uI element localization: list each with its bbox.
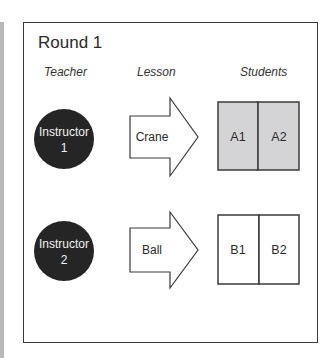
student-label-b2: B2 (271, 243, 286, 257)
student-label-a1: A1 (230, 130, 245, 144)
lesson-arrow-2 (130, 212, 198, 288)
student-label-b1: B1 (230, 243, 245, 257)
lesson-label-2: Ball (142, 243, 162, 257)
diagram-canvas: Instructor 1 Crane A1 A2 Instructor 2 Ba… (0, 0, 335, 358)
teacher-circle-1 (34, 109, 94, 169)
teacher-label-1-line2: 1 (61, 141, 68, 155)
teacher-label-1-line1: Instructor (39, 125, 89, 139)
row-2: Instructor 2 Ball B1 B2 (34, 212, 299, 288)
teacher-circle-2 (34, 221, 94, 281)
student-label-a2: A2 (271, 130, 286, 144)
lesson-label-1: Crane (136, 130, 169, 144)
row-1: Instructor 1 Crane A1 A2 (34, 98, 299, 176)
teacher-label-2-line1: Instructor (39, 237, 89, 251)
teacher-label-2-line2: 2 (61, 253, 68, 267)
